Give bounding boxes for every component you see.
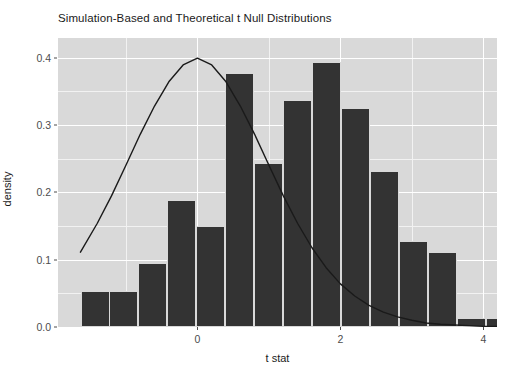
x-tick-mark [197, 327, 198, 330]
x-tick-label: 4 [480, 333, 486, 345]
y-tick-label: 0.2 [36, 186, 51, 198]
y-axis-title: density [1, 172, 13, 207]
y-tick-mark [54, 327, 57, 328]
x-tick-label: 2 [337, 333, 343, 345]
plot-panel [58, 38, 497, 327]
y-tick-label: 0.4 [36, 52, 51, 64]
x-tick-mark [483, 327, 484, 330]
chart-title: Simulation-Based and Theoretical t Null … [58, 12, 332, 24]
x-axis-title: t stat [58, 352, 497, 364]
chart-root: Simulation-Based and Theoretical t Null … [0, 0, 519, 378]
y-tick-mark [54, 192, 57, 193]
x-tick-label: 0 [194, 333, 200, 345]
y-tick-mark [54, 259, 57, 260]
theoretical-curve [58, 38, 497, 327]
y-tick-mark [54, 57, 57, 58]
x-tick-mark [340, 327, 341, 330]
y-tick-mark [54, 124, 57, 125]
y-tick-label: 0.1 [36, 254, 51, 266]
theoretical-curve-path [80, 58, 497, 326]
y-tick-label: 0.0 [36, 321, 51, 333]
y-tick-label: 0.3 [36, 119, 51, 131]
